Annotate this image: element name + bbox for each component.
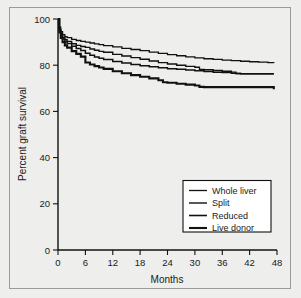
curve-whole-liver [58,19,274,63]
x-tick-label-0: 0 [55,257,60,268]
y-tick-label-20: 20 [39,198,50,209]
x-tick-marks [58,250,277,255]
survival-curve-chart: 100 80 60 40 20 0 Percent graft survival… [0,0,301,298]
chart-legend: Whole liver Split Reduced Live donor [183,181,271,234]
figure-container: 100 80 60 40 20 0 Percent graft survival… [0,0,301,298]
x-axis-group: 0 6 12 18 24 30 36 42 48 Months [55,250,282,285]
legend-label-whole-liver: Whole liver [212,186,257,196]
legend-label-split: Split [212,198,230,208]
x-axis-title: Months [151,274,184,285]
x-tick-label-24: 24 [162,257,173,268]
y-tick-marks [53,19,58,250]
x-tick-label-48: 48 [272,257,283,268]
x-tick-label-30: 30 [190,257,201,268]
x-tick-label-12: 12 [108,257,119,268]
y-axis-title: Percent graft survival [17,87,28,181]
x-tick-label-18: 18 [135,257,146,268]
legend-label-reduced: Reduced [212,211,248,221]
x-tick-label-6: 6 [83,257,88,268]
x-tick-label-42: 42 [244,257,255,268]
x-tick-label-36: 36 [217,257,228,268]
legend-label-live-donor: Live donor [212,223,254,233]
y-tick-label-100: 100 [34,14,50,25]
y-tick-label-40: 40 [39,152,50,163]
y-tick-label-80: 80 [39,60,50,71]
y-tick-label-60: 60 [39,106,50,117]
y-axis-group: 100 80 60 40 20 0 Percent graft survival [17,14,58,256]
survival-curves [58,19,274,89]
y-tick-label-0: 0 [45,245,50,256]
